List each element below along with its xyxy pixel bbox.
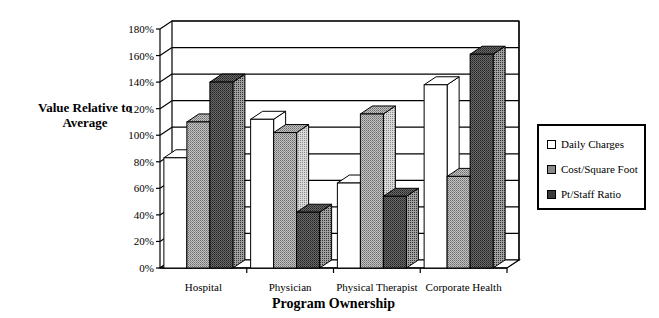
legend-label: Cost/Square Foot xyxy=(561,163,638,175)
legend-item-pt-staff-ratio: Pt/Staff Ratio xyxy=(547,188,621,200)
x-tick-label: Physical Therapist xyxy=(336,281,417,293)
y-tick-label: 40% xyxy=(134,209,154,221)
legend-item-cost-square-foot: Cost/Square Foot xyxy=(547,163,638,175)
x-tick-label: Corporate Health xyxy=(426,281,503,293)
legend-label: Daily Charges xyxy=(561,138,624,150)
y-tick-label: 140% xyxy=(128,76,154,88)
x-tick-label: Hospital xyxy=(185,281,222,293)
x-axis-tick-labels: HospitalPhysicianPhysical TherapistCorpo… xyxy=(185,281,502,293)
bar-pt-staff-ratio xyxy=(297,204,332,268)
y-tick-label: 160% xyxy=(128,50,154,62)
legend-label: Pt/Staff Ratio xyxy=(561,188,621,200)
bar-pt-staff-ratio xyxy=(210,74,245,268)
bar-pt-staff-ratio xyxy=(383,188,418,268)
legend-swatch-pt-staff-ratio xyxy=(547,190,556,199)
y-axis-label-line-1: Value Relative to xyxy=(10,100,160,115)
y-tick-label: 60% xyxy=(134,182,154,194)
y-axis-label-line-2: Average xyxy=(10,115,160,130)
legend-item-daily-charges: Daily Charges xyxy=(547,138,624,150)
legend-swatch-daily-charges xyxy=(547,140,556,149)
chart-legend: Daily Charges Cost/Square Foot Pt/Staff … xyxy=(537,124,646,210)
y-tick-label: 80% xyxy=(134,156,154,168)
x-tick-label: Physician xyxy=(269,281,312,293)
y-tick-label: 0% xyxy=(139,262,154,274)
y-tick-label: 180% xyxy=(128,23,154,35)
x-axis-label: Program Ownership xyxy=(160,296,507,312)
y-tick-label: 20% xyxy=(134,235,154,247)
y-tick-label: 100% xyxy=(128,129,154,141)
bar-pt-staff-ratio xyxy=(470,46,505,268)
legend-swatch-cost-square-foot xyxy=(547,165,556,174)
y-axis-label: Value Relative to Average xyxy=(10,100,160,130)
